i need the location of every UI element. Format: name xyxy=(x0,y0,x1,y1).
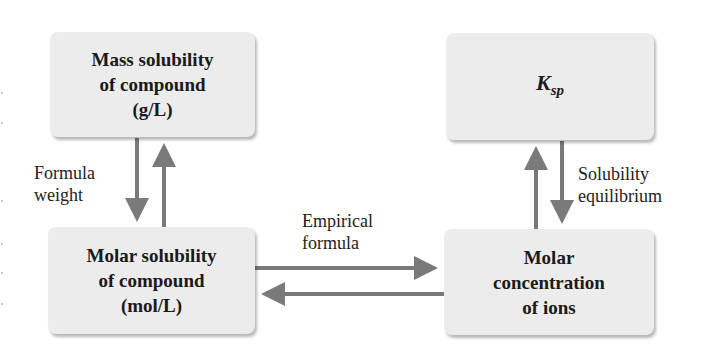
label-solubility-equilibrium: Solubility equilibrium xyxy=(578,163,662,207)
edge-mark xyxy=(1,272,3,274)
label-line: formula xyxy=(302,232,373,254)
node-text-line: Molar xyxy=(493,245,605,270)
edge-mark xyxy=(1,243,3,245)
node-text-line: Molar solubility xyxy=(86,243,216,268)
node-text-line: (mol/L) xyxy=(86,293,216,318)
label-line: Empirical xyxy=(302,210,373,232)
label-line: equilibrium xyxy=(578,185,662,207)
ksp-symbol: Ksp xyxy=(536,70,564,103)
edge-mark xyxy=(1,122,3,124)
node-molar-concentration: Molar concentration of ions xyxy=(444,229,654,335)
node-text-line: of ions xyxy=(493,295,605,320)
node-mass-solubility: Mass solubility of compound (g/L) xyxy=(50,32,255,137)
node-molar-solubility: Molar solubility of compound (mol/L) xyxy=(48,227,255,334)
node-text-line: Mass solubility xyxy=(92,47,214,72)
node-ksp: Ksp xyxy=(446,33,654,140)
edge-mark xyxy=(1,303,3,305)
node-text-line: concentration xyxy=(493,270,605,295)
label-formula-weight: Formula weight xyxy=(34,162,95,206)
node-text-line: of compound xyxy=(86,268,216,293)
edge-mark xyxy=(1,92,3,94)
label-line: weight xyxy=(34,184,95,206)
node-text-line: of compound xyxy=(92,72,214,97)
label-line: Solubility xyxy=(578,163,662,185)
node-text-line: (g/L) xyxy=(92,97,214,122)
label-empirical-formula: Empirical formula xyxy=(302,210,373,254)
edge-mark xyxy=(1,200,3,202)
label-line: Formula xyxy=(34,162,95,184)
